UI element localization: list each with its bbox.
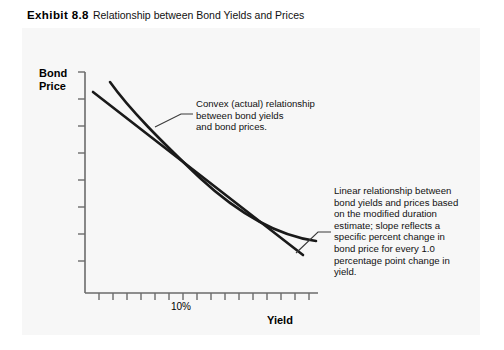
annotation-linear-line-5: specific percent change in	[334, 231, 484, 243]
annotation-convex-line-3: and bond prices.	[196, 121, 346, 133]
y-axis-title-line-1: Bond	[39, 67, 67, 80]
annotation-convex-relationship: Convex (actual) relationship between bon…	[196, 98, 346, 133]
y-axis-ticks	[78, 72, 85, 261]
annotation-linear-line-8: yield.	[334, 266, 484, 278]
annotation-linear-line-2: bond yields and prices based	[334, 197, 484, 209]
y-axis-title: Bond Price	[39, 67, 67, 92]
annotation-linear-line-3: on the modified duration	[334, 208, 484, 220]
x-tick-label-10-percent: 10%	[171, 301, 191, 312]
x-axis-title: Yield	[267, 314, 293, 327]
annotation-linear-line-1: Linear relationship between	[334, 185, 484, 197]
annotation-convex-line-1: Convex (actual) relationship	[196, 98, 346, 110]
annotation-linear-relationship: Linear relationship between bond yields …	[334, 185, 484, 278]
convex-annotation-leader	[155, 114, 193, 127]
bond-price-yield-chart	[0, 0, 504, 350]
annotation-linear-line-4: estimate; slope reflects a	[334, 220, 484, 232]
annotation-linear-line-6: bond price for every 1.0	[334, 243, 484, 255]
linear-annotation-leader	[296, 232, 331, 253]
x-axis-ticks	[99, 293, 309, 300]
annotation-linear-line-7: percentage point change in	[334, 255, 484, 267]
y-axis-title-line-2: Price	[39, 80, 67, 93]
annotation-convex-line-2: between bond yields	[196, 110, 346, 122]
